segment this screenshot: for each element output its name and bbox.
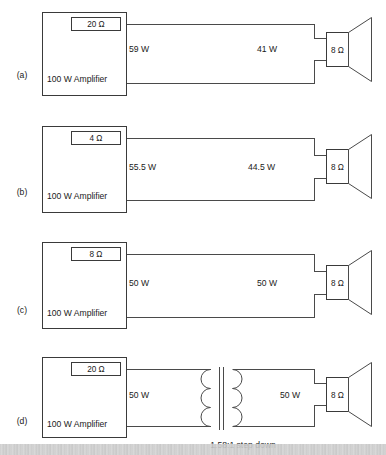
schematic-canvas: (a) 100 W Amplifier 20 Ω 59 W 41 W 8 Ω (… (0, 0, 386, 455)
panel-c-speaker-label: 8 Ω (331, 279, 344, 288)
scan-artifact-strip (0, 444, 386, 455)
panel-d-transformer-primary-coil (201, 370, 211, 427)
panel-d-source-power-label: 50 W (129, 390, 150, 400)
panel-a-source-power-label: 59 W (129, 44, 150, 54)
panel-a-load-power-label: 41 W (257, 44, 278, 54)
panel-c-top-wire (127, 255, 327, 272)
panel-d-load-power-label: 50 W (280, 390, 301, 400)
panel-b-top-wire (127, 139, 327, 156)
panel-d-amplifier-label: 100 W Amplifier (47, 419, 107, 429)
panel-d: (d) 100 W Amplifier 20 Ω 50 W 50 W 1.58:… (17, 358, 372, 451)
panel-a-speaker-horn (349, 18, 372, 82)
panel-c-load-power-label: 50 W (257, 278, 278, 288)
panel-c-bottom-wire (127, 295, 327, 318)
panel-b-speaker-horn (349, 135, 372, 199)
panel-d-speaker-label: 8 Ω (331, 391, 344, 400)
panel-b: (b) 100 W Amplifier 4 Ω 55.5 W 44.5 W 8 … (17, 127, 372, 213)
panel-d-transformer-secondary-coil (233, 370, 243, 427)
panel-c-source-impedance-label: 8 Ω (90, 250, 103, 259)
panel-c-source-power-label: 50 W (129, 278, 150, 288)
panel-a-amplifier-label: 100 W Amplifier (47, 74, 107, 84)
panel-b-source-power-label: 55.5 W (129, 162, 157, 172)
panel-c-label: (c) (17, 305, 27, 315)
panel-d-label: (d) (17, 416, 28, 426)
panel-a-label: (a) (17, 70, 28, 80)
panel-d-source-impedance-label: 20 Ω (87, 365, 105, 374)
panel-b-source-impedance-label: 4 Ω (90, 134, 103, 143)
panel-b-load-power-label: 44.5 W (248, 162, 276, 172)
panel-b-bottom-wire (127, 179, 327, 201)
panel-b-amplifier-label: 100 W Amplifier (47, 191, 107, 201)
panel-d-secondary-top-wire (233, 370, 327, 384)
panel-c-speaker-horn (349, 251, 372, 315)
panel-a-source-impedance-label: 20 Ω (87, 20, 105, 29)
panel-a-bottom-wire (127, 61, 327, 84)
panel-a-speaker-label: 8 Ω (331, 46, 344, 55)
panel-b-label: (b) (17, 187, 28, 197)
panel-c: (c) 100 W Amplifier 8 Ω 50 W 50 W 8 Ω (17, 243, 372, 329)
panel-d-secondary-bottom-wire (233, 406, 327, 427)
panel-c-amplifier-label: 100 W Amplifier (47, 308, 107, 318)
panel-a-top-wire (127, 25, 327, 39)
panel-a: (a) 100 W Amplifier 20 Ω 59 W 41 W 8 Ω (17, 13, 372, 96)
panel-b-speaker-label: 8 Ω (331, 163, 344, 172)
panel-d-speaker-horn (349, 363, 372, 427)
schematic-figure: (a) 100 W Amplifier 20 Ω 59 W 41 W 8 Ω (… (0, 0, 386, 455)
